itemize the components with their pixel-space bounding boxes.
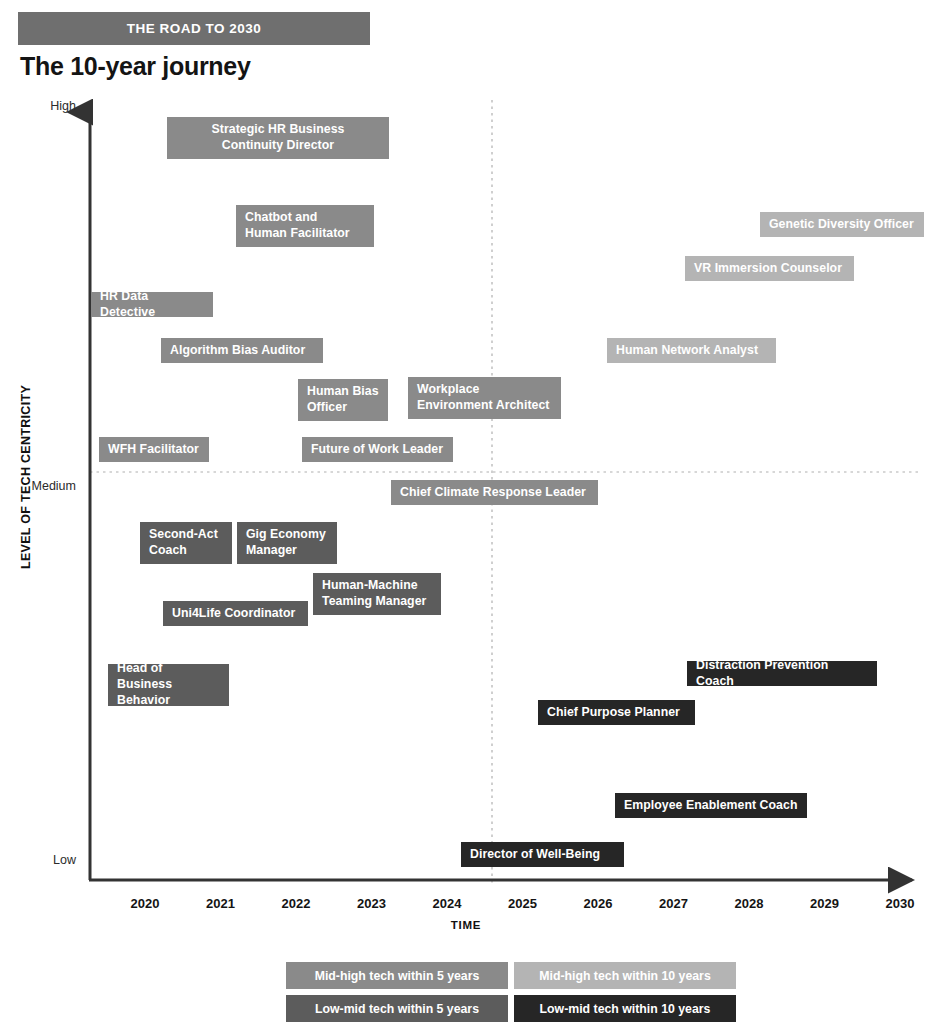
x-tick-2028: 2028 (716, 896, 782, 911)
y-tick-medium: Medium (6, 479, 76, 493)
legend-row: Low-mid tech within 5 years Low-mid tech… (286, 995, 736, 1022)
chart-legend: Mid-high tech within 5 years Mid-high te… (286, 962, 736, 1028)
role-label[interactable]: Second-Act Coach (140, 522, 232, 564)
role-label[interactable]: Chatbot and Human Facilitator (236, 205, 374, 247)
role-label[interactable]: Algorithm Bias Auditor (161, 338, 323, 363)
legend-item-mid-high-10[interactable]: Mid-high tech within 10 years (514, 962, 736, 989)
role-label[interactable]: Employee Enablement Coach (615, 793, 807, 818)
role-label[interactable]: Strategic HR Business Continuity Directo… (167, 117, 389, 159)
legend-row: Mid-high tech within 5 years Mid-high te… (286, 962, 736, 989)
legend-item-low-mid-5[interactable]: Low-mid tech within 5 years (286, 995, 508, 1022)
x-tick-2022: 2022 (263, 896, 329, 911)
role-label[interactable]: Gig Economy Manager (237, 522, 337, 564)
role-label[interactable]: Director of Well-Being (461, 842, 624, 867)
role-label[interactable]: Uni4Life Coordinator (163, 601, 308, 626)
role-label[interactable]: Chief Purpose Planner (538, 700, 695, 725)
legend-item-low-mid-10[interactable]: Low-mid tech within 10 years (514, 995, 736, 1022)
x-axis-title: TIME (0, 919, 932, 931)
chart-plot-area: High Medium Low LEVEL OF TECH CENTRICITY… (0, 0, 932, 900)
y-tick-low: Low (6, 853, 76, 867)
x-tick-2027: 2027 (641, 896, 707, 911)
role-label[interactable]: Distraction Prevention Coach (687, 661, 877, 686)
legend-item-mid-high-5[interactable]: Mid-high tech within 5 years (286, 962, 508, 989)
x-tick-2023: 2023 (339, 896, 405, 911)
y-axis-title: LEVEL OF TECH CENTRICITY (19, 377, 33, 577)
role-label[interactable]: WFH Facilitator (99, 437, 209, 462)
x-tick-2025: 2025 (490, 896, 556, 911)
role-label[interactable]: Chief Climate Response Leader (391, 480, 598, 505)
x-tick-2020: 2020 (112, 896, 178, 911)
y-tick-high: High (6, 99, 76, 113)
x-tick-2021: 2021 (188, 896, 254, 911)
role-label[interactable]: Human Network Analyst (607, 338, 776, 363)
role-label[interactable]: HR Data Detective (91, 292, 213, 317)
x-tick-2026: 2026 (565, 896, 631, 911)
role-label[interactable]: Workplace Environment Architect (408, 377, 561, 419)
role-label[interactable]: Human Bias Officer (298, 379, 388, 421)
role-label[interactable]: Head of Business Behavior (108, 664, 229, 706)
role-label[interactable]: VR Immersion Counselor (685, 256, 854, 281)
role-label[interactable]: Genetic Diversity Officer (760, 212, 924, 237)
x-tick-2029: 2029 (792, 896, 858, 911)
x-tick-2024: 2024 (414, 896, 480, 911)
role-label[interactable]: Future of Work Leader (302, 437, 453, 462)
x-tick-2030: 2030 (867, 896, 932, 911)
role-label[interactable]: Human-Machine Teaming Manager (313, 573, 441, 615)
